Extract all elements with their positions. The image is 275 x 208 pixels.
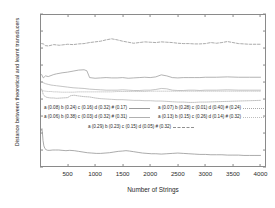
data-curves: [40, 14, 266, 167]
legend-entry: a (0.07) b (0.28) c (0.01) d (0.40) # (0…: [158, 105, 264, 110]
x-tick-label: 4000: [254, 170, 268, 177]
series-line: [42, 70, 261, 79]
legend-label: a (0.29) b (0.23) c (0.15) d (0.05) # (0…: [88, 124, 171, 129]
legend-label: a (0.13) b (0.15) c (0.26) d (0.14) # (0…: [158, 114, 241, 119]
legend-line-sample: [129, 115, 150, 119]
x-tick-label: 3500: [226, 170, 240, 177]
plot-area: 00.050.10.150.20.250.30.350.40.45 500100…: [40, 14, 266, 167]
x-tick-label: 1500: [116, 170, 130, 177]
x-axis-label: Number of Strings: [40, 186, 266, 193]
legend-entry: a (0.06) b (0.38) c (0.03) d (0.32) # (0…: [44, 114, 150, 119]
series-line: [42, 82, 261, 91]
series-line: [42, 39, 261, 46]
chart-figure: Distance between theoretical and learnt …: [0, 0, 275, 208]
legend-label: a (0.06) b (0.38) c (0.03) d (0.32) # (0…: [44, 114, 127, 119]
legend-line-sample: [173, 125, 194, 129]
legend-line-sample: [243, 115, 264, 119]
x-tick-label: 2500: [171, 170, 185, 177]
legend-label: a (0.07) b (0.28) c (0.01) d (0.40) # (0…: [158, 105, 241, 110]
legend-label: a (0.08) b (0.24) c (0.16) d (0.32) # (0…: [44, 105, 127, 110]
chart-legend: a (0.08) b (0.24) c (0.16) d (0.32) # (0…: [40, 105, 266, 141]
legend-entry: a (0.29) b (0.23) c (0.15) d (0.05) # (0…: [88, 124, 194, 129]
legend-entry: a (0.13) b (0.15) c (0.26) d (0.14) # (0…: [158, 114, 264, 119]
x-tick-label: 1000: [88, 170, 102, 177]
x-tick-label: 3000: [198, 170, 212, 177]
y-axis-label: Distance between theoretical and learnt …: [14, 2, 20, 162]
legend-entry: a (0.08) b (0.24) c (0.16) d (0.32) # (0…: [44, 105, 150, 110]
x-tick-label: 2000: [143, 170, 157, 177]
x-tick-label: 500: [62, 170, 72, 177]
legend-line-sample: [129, 106, 150, 110]
series-line: [42, 90, 261, 92]
legend-line-sample: [243, 106, 264, 110]
